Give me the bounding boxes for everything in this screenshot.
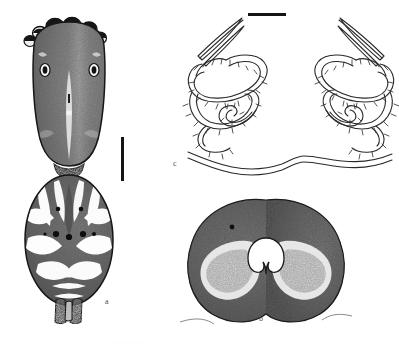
panel-a-dorsal-habitus: [14, 8, 144, 320]
figure-caption: . . . . . . . . . . .: [108, 337, 228, 345]
right-inner-spiral: [326, 106, 363, 126]
panel-label-a: a: [105, 298, 109, 306]
panel-b-epigyne: [180, 194, 352, 330]
panel-label-c: c: [173, 160, 177, 168]
figure-plate: a b c . . . . . . . . . . .: [0, 0, 399, 349]
right-duct-outer: [315, 55, 394, 102]
panel-c-drawing: [186, 4, 396, 180]
panel-a-drawing: [14, 8, 144, 320]
panel-c-internal-genitalia: [186, 4, 396, 180]
spinnerets: [55, 299, 82, 324]
margin-line-right: [322, 314, 352, 320]
scale-bar-horizontal: [248, 13, 286, 16]
margin-line-left: [180, 319, 214, 324]
panel-b-drawing: [180, 194, 352, 330]
panel-label-b: b: [259, 315, 263, 323]
left-inner-spiral: [219, 106, 256, 126]
left-duct-outer: [188, 55, 267, 102]
scale-bar-vertical: [121, 137, 124, 181]
abdomen: [14, 168, 144, 318]
median-hood: [248, 238, 284, 274]
